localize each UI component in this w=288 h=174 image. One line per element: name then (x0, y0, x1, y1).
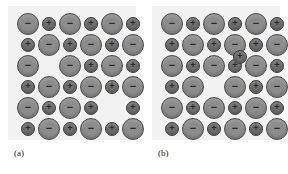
plus-sign-icon: + (169, 40, 174, 49)
ion-anion-b-r1c5: − (245, 13, 267, 35)
ion-anion-a-r2c6: − (122, 34, 144, 56)
minus-sign-icon: − (67, 60, 73, 71)
plus-sign-icon: + (109, 82, 114, 91)
ion-anion-a-r3c5: − (101, 55, 123, 77)
ion-cation-b-r1c2: + (186, 17, 200, 31)
plus-sign-icon: + (67, 124, 72, 133)
defect-figure: −+−+−++−+−+−−−+−++−+−+−−+−+++−+−+− −+−+−… (0, 0, 288, 174)
ion-anion-a-r6c6: − (122, 118, 144, 140)
minus-sign-icon: − (67, 18, 73, 29)
plus-sign-icon: + (130, 61, 135, 70)
plus-sign-icon: + (274, 61, 279, 70)
ion-anion-b-r4c4: − (224, 76, 246, 98)
ion-cation-a-r6c3: + (63, 122, 77, 136)
lattice-b: −+−+−++−+−+−−+−+−++−−+−−+−+−++−+−+−+ (152, 6, 280, 140)
vacancy-cation-a-r3c2 (42, 59, 56, 73)
minus-sign-icon: − (88, 81, 94, 92)
ion-anion-b-r2c6: − (266, 34, 288, 56)
ion-anion-b-r6c4: − (224, 118, 246, 140)
ion-cation-b-r3c2: + (186, 59, 200, 73)
ion-anion-a-r1c1: − (17, 13, 39, 35)
ion-anion-b-r3c5: − (245, 55, 267, 77)
plus-sign-icon: + (46, 19, 51, 28)
ion-anion-a-r6c4: − (80, 118, 102, 140)
minus-sign-icon: − (211, 18, 217, 29)
plus-sign-icon: + (190, 61, 195, 70)
ion-cation-a-r5c4: + (84, 101, 98, 115)
ion-cation-b-r6c3: + (207, 122, 221, 136)
minus-sign-icon: − (232, 39, 238, 50)
ion-anion-b-r3c3: − (203, 55, 225, 77)
minus-sign-icon: − (232, 81, 238, 92)
ion-anion-b-r1c1: − (161, 13, 183, 35)
caption-panel-a: (a) (14, 148, 24, 158)
minus-sign-icon: − (88, 123, 94, 134)
minus-sign-icon: − (274, 39, 280, 50)
ion-cation-a-r3c4: + (84, 59, 98, 73)
minus-sign-icon: − (130, 123, 136, 134)
plus-sign-icon: + (46, 103, 51, 112)
ion-cation-a-r1c4: + (84, 17, 98, 31)
ion-cation-b-r5c2: + (186, 101, 200, 115)
plus-sign-icon: + (169, 124, 174, 133)
panel-a-schottky-defect: −+−+−++−+−+−−−+−++−+−+−−+−+++−+−+− (8, 6, 136, 140)
ion-anion-a-r4c2: − (38, 76, 60, 98)
ion-cation-b-r2c1: + (165, 38, 179, 52)
minus-sign-icon: − (25, 102, 31, 113)
ion-anion-b-r5c5: − (245, 97, 267, 119)
ion-cation-a-r4c5: + (105, 80, 119, 94)
ion-anion-a-r1c5: − (101, 13, 123, 35)
plus-sign-icon: + (109, 40, 114, 49)
ion-anion-b-r2c2: − (182, 34, 204, 56)
minus-sign-icon: − (169, 102, 175, 113)
ion-cation-a-r2c5: + (105, 38, 119, 52)
minus-sign-icon: − (67, 102, 73, 113)
minus-sign-icon: − (274, 123, 280, 134)
plus-sign-icon: + (190, 103, 195, 112)
minus-sign-icon: − (25, 18, 31, 29)
plus-sign-icon: + (25, 82, 30, 91)
ion-anion-a-r5c3: − (59, 97, 81, 119)
minus-sign-icon: − (190, 81, 196, 92)
ion-cation-b-r6c5: + (249, 122, 263, 136)
plus-sign-icon: + (253, 124, 258, 133)
plus-sign-icon: + (274, 19, 279, 28)
ion-cation-b-r1c6: + (270, 17, 284, 31)
plus-sign-icon: + (253, 82, 258, 91)
ion-anion-a-r4c4: − (80, 76, 102, 98)
caption-panel-b: (b) (158, 148, 169, 158)
plus-sign-icon: + (109, 124, 114, 133)
ion-anion-b-r1c3: − (203, 13, 225, 35)
ion-anion-b-r4c6: − (266, 76, 288, 98)
plus-sign-icon: + (211, 124, 216, 133)
ion-anion-a-r2c4: − (80, 34, 102, 56)
ion-cation-b-r2c5: + (249, 38, 263, 52)
minus-sign-icon: − (253, 102, 259, 113)
minus-sign-icon: − (130, 81, 136, 92)
ion-cation-b-r4c1: + (165, 80, 179, 94)
ion-cation-a-r2c1: + (21, 38, 35, 52)
vacancy-anion-a-r5c5 (101, 97, 123, 119)
ion-anion-b-r5c1: − (161, 97, 183, 119)
minus-sign-icon: − (190, 39, 196, 50)
plus-sign-icon: + (274, 103, 279, 112)
ion-cation-b-r4c5: + (249, 80, 263, 94)
ion-anion-b-r6c2: − (182, 118, 204, 140)
ion-cation-b-r5c4: + (228, 101, 242, 115)
plus-sign-icon: + (232, 19, 237, 28)
minus-sign-icon: − (88, 39, 94, 50)
plus-sign-icon: + (232, 103, 237, 112)
minus-sign-icon: − (25, 60, 31, 71)
plus-sign-icon: + (25, 40, 30, 49)
ion-anion-b-r6c6: − (266, 118, 288, 140)
plus-sign-icon: + (130, 103, 135, 112)
ion-cation-a-r1c2: + (42, 17, 56, 31)
plus-sign-icon: + (130, 19, 135, 28)
minus-sign-icon: − (211, 102, 217, 113)
minus-sign-icon: − (232, 123, 238, 134)
plus-sign-icon: + (67, 40, 72, 49)
ion-interstitial-cation-b: + (233, 50, 247, 64)
ion-anion-a-r2c2: − (38, 34, 60, 56)
minus-sign-icon: − (109, 60, 115, 71)
ion-cation-a-r4c1: + (21, 80, 35, 94)
